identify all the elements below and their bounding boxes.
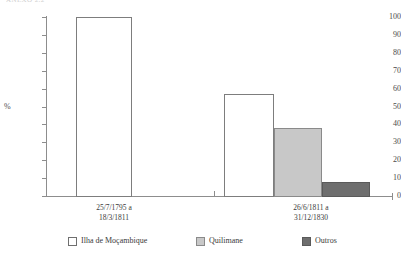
category-label-line-1: 26/6/1811 a bbox=[256, 203, 366, 213]
x-tick-mark bbox=[214, 191, 215, 197]
legend-label: Outros bbox=[315, 236, 337, 246]
bar-white-group1 bbox=[76, 17, 132, 197]
y-tick-mark bbox=[42, 160, 47, 161]
bar-light-group2 bbox=[274, 128, 322, 197]
chart-legend: Ilha de MoçambiqueQuilimaneOutros bbox=[0, 236, 401, 252]
category-label-line-2: 18/3/1811 bbox=[59, 213, 169, 223]
legend-swatch-icon bbox=[302, 237, 311, 246]
legend-item-light[interactable]: Quilimane bbox=[196, 236, 243, 246]
y-tick-label: 60 bbox=[363, 85, 401, 93]
legend-swatch-icon bbox=[68, 237, 77, 246]
legend-item-dark[interactable]: Outros bbox=[302, 236, 337, 246]
category-label-line-1: 25/7/1795 a bbox=[59, 203, 169, 213]
y-tick-label: 40 bbox=[363, 120, 401, 128]
y-tick-label: 30 bbox=[363, 138, 401, 146]
y-tick-mark bbox=[42, 71, 47, 72]
legend-swatch-icon bbox=[196, 237, 205, 246]
y-tick-mark bbox=[42, 142, 47, 143]
x-tick-mark bbox=[392, 193, 393, 200]
y-tick-mark bbox=[42, 89, 47, 90]
category-label-2: 26/6/1811 a31/12/1830 bbox=[256, 203, 366, 222]
y-tick-label: 100 bbox=[363, 13, 401, 21]
y-tick-mark bbox=[42, 107, 47, 108]
y-tick-label: 20 bbox=[363, 156, 401, 164]
category-label-line-2: 31/12/1830 bbox=[256, 213, 366, 223]
bar-dark-group2 bbox=[322, 182, 370, 197]
y-axis-title: % bbox=[4, 103, 16, 111]
bar-chart: % 0102030405060708090100 25/7/1795 a18/3… bbox=[0, 0, 401, 262]
y-tick-label: 80 bbox=[363, 49, 401, 57]
y-tick-mark bbox=[42, 53, 47, 54]
legend-item-white[interactable]: Ilha de Moçambique bbox=[68, 236, 147, 246]
y-tick-mark bbox=[42, 178, 47, 179]
y-tick-mark bbox=[42, 124, 47, 125]
bar-white-group2 bbox=[224, 94, 274, 197]
x-tick-mark bbox=[46, 191, 47, 197]
y-tick-label: 50 bbox=[363, 103, 401, 111]
y-tick-label: 70 bbox=[363, 67, 401, 75]
y-tick-label: 90 bbox=[363, 31, 401, 39]
legend-label: Quilimane bbox=[209, 236, 243, 246]
y-tick-mark bbox=[42, 35, 47, 36]
y-tick-mark bbox=[42, 17, 47, 18]
legend-label: Ilha de Moçambique bbox=[81, 236, 147, 246]
category-label-1: 25/7/1795 a18/3/1811 bbox=[59, 203, 169, 222]
